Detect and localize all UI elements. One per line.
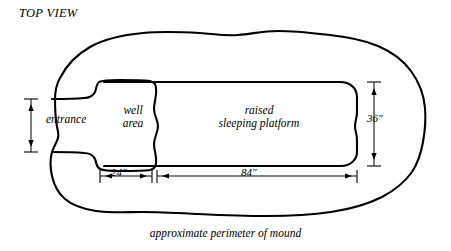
entrance-label: entrance [46,113,86,126]
well-area-label-line1: well [123,104,142,116]
platform-label-line1: raised [245,104,274,116]
well-area-label-line2: area [123,117,144,129]
perimeter-caption: approximate perimeter of mound [0,227,451,240]
platform-label-line2: sleeping platform [219,117,300,129]
raised-sleeping-platform-label: raisedsleeping platform [189,104,329,130]
dimension-label-36: 36" [367,112,383,124]
inner-chamber-lower-edge [52,152,156,171]
dimension-label-84: 84" [241,166,257,178]
top-view-title: TOP VIEW [19,6,78,20]
dimension-entrance-height [24,99,38,152]
dimension-platform-length-84 [157,170,357,183]
well-area-label: wellarea [111,104,155,130]
dimension-label-24: 24" [111,166,127,178]
diagram-page: TOP VIEW entrance wellarea raisedsleepin… [0,0,451,251]
